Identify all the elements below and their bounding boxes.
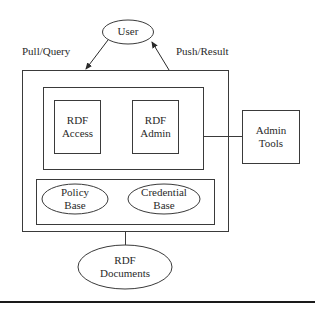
credential-base-line2: Base [128, 199, 200, 212]
rdf-documents-line2: Documents [78, 267, 172, 280]
rdf-admin-line1: RDF [132, 114, 179, 127]
policy-base-label: Policy Base [42, 186, 108, 212]
rdf-access-label: RDF Access [54, 114, 101, 140]
rdf-documents-line1: RDF [78, 254, 172, 267]
rdf-access-line2: Access [54, 127, 101, 140]
rdf-admin-line2: Admin [132, 127, 179, 140]
rdf-access-line1: RDF [54, 114, 101, 127]
credential-base-line1: Credential [128, 186, 200, 199]
pull-query-arrow [86, 40, 108, 69]
policy-base-line1: Policy [42, 186, 108, 199]
user-label: User [103, 25, 153, 38]
credential-base-label: Credential Base [128, 186, 200, 212]
admin-tools-line2: Tools [242, 137, 300, 150]
admin-tools-label: Admin Tools [242, 124, 300, 150]
diagram-canvas: User Pull/Query Push/Result RDF Access R… [0, 0, 315, 310]
policy-base-line2: Base [42, 199, 108, 212]
pull-query-label: Pull/Query [22, 45, 70, 58]
admin-tools-line1: Admin [242, 124, 300, 137]
push-result-arrow [152, 42, 169, 70]
rdf-admin-label: RDF Admin [132, 114, 179, 140]
rdf-documents-label: RDF Documents [78, 254, 172, 280]
push-result-label: Push/Result [176, 45, 229, 58]
bottom-rule-divider [0, 301, 315, 303]
